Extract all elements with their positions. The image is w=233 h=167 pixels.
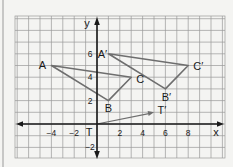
x-tick-label: 4: [140, 128, 145, 138]
x-tick-label: 8: [186, 128, 191, 138]
x-tick-label: −2: [69, 128, 79, 138]
x-tick-label: 6: [163, 128, 168, 138]
point-label-a: A: [39, 59, 47, 71]
labels: −4−22468642−2xyABCA′B′C′TT′: [39, 17, 220, 152]
x-tick-label: −4: [47, 128, 57, 138]
point-label-t: T: [86, 126, 93, 138]
coordinate-plane: −4−22468642−2xyABCA′B′C′TT′: [0, 0, 233, 167]
x-tick-label: 2: [117, 128, 122, 138]
x-axis-label: x: [213, 126, 219, 138]
y-axis-up-arrow-icon: [94, 17, 100, 25]
point-label-b: B: [105, 102, 112, 114]
diagram-frame: −4−22468642−2xyABCA′B′C′TT′: [0, 0, 233, 167]
y-axis-label: y: [84, 17, 90, 29]
point-label-t-prime: T′: [158, 104, 167, 116]
y-tick-label: −2: [85, 142, 95, 152]
translation-vector: [97, 113, 150, 124]
triangle-a-primeb-primec-prime: [108, 54, 188, 89]
point-label-a-prime: A′: [98, 48, 107, 60]
point-label-b-prime: B′: [162, 91, 171, 103]
y-tick-label: 6: [88, 49, 93, 59]
y-tick-label: 4: [88, 72, 93, 82]
vector-arrowhead-icon: [148, 111, 154, 116]
point-label-c: C: [136, 73, 144, 85]
point-label-c-prime: C′: [193, 60, 203, 72]
y-tick-label: 2: [88, 96, 93, 106]
